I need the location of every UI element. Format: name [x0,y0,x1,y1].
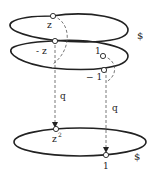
bottom-circle [14,128,146,156]
label-top-circle: $ [137,30,143,41]
point-minus-z [52,38,57,43]
point-one-bottom [103,152,108,157]
label-z: z [47,20,52,30]
label-minus-z: - z [36,46,47,56]
label-map-right: q [112,103,118,113]
label-one: 1 [95,46,101,56]
label-bottom-circle: $ [134,151,140,162]
label-map-left: q [60,91,66,101]
top-loop-lower [11,40,128,69]
label-one-bottom: 1 [103,161,109,171]
point-z [50,13,55,18]
label-minus-one: − 1 [86,72,102,82]
double-cover-diagram: z - z 1 − 1 $ q q z 2 1 $ [0,0,148,179]
top-loop-upper [10,14,128,42]
point-minus-one [101,67,106,72]
label-z-squared-exp: 2 [58,131,62,138]
point-one [100,53,105,58]
label-z-squared: z [52,134,57,144]
